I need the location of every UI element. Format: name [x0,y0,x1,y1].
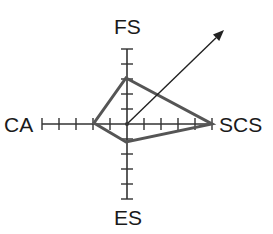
axis-label-ca: CA [4,114,33,135]
origin-point [125,122,129,126]
axis-label-es: ES [114,207,142,228]
arrow-shaft [127,38,216,124]
profile-polygon [94,78,212,142]
axis-label-scs: SCS [219,114,262,135]
axis-label-fs: FS [114,16,141,37]
resultant-arrow [125,30,224,126]
